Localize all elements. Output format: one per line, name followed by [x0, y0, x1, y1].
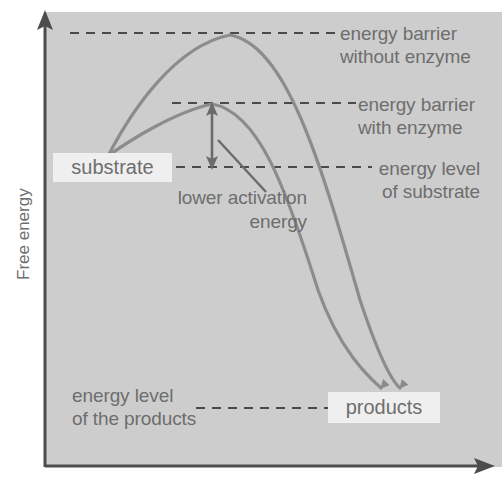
substrate-label: substrate [53, 153, 172, 182]
annotation-barrier-without-enzyme-line1: energy barrier [340, 22, 457, 45]
annotation-barrier-with-enzyme-line2: with enzyme [358, 116, 463, 139]
annotation-barrier-without-enzyme-line2: without enzyme [340, 45, 471, 68]
enzyme-energy-diagram: Free energy substrate products energy ba… [0, 0, 502, 479]
annotation-level-of-substrate-line1: energy level [328, 157, 480, 180]
y-axis-title: Free energy [14, 188, 34, 280]
curve-with-enzyme [108, 104, 381, 388]
x-axis [45, 458, 495, 474]
annotation-level-of-substrate-line2: of substrate [328, 180, 480, 203]
activation-energy-arrow [206, 102, 218, 170]
annotation-lower-activation-energy-line1: lower activation [125, 186, 307, 209]
annotation-level-of-products-line2: of the products [72, 407, 196, 430]
annotation-level-of-products-line1: energy level [72, 384, 173, 407]
annotation-lower-activation-energy-line2: energy [125, 210, 307, 233]
products-label: products [328, 392, 440, 423]
annotation-barrier-with-enzyme-line1: energy barrier [358, 93, 475, 116]
y-axis [37, 10, 53, 467]
